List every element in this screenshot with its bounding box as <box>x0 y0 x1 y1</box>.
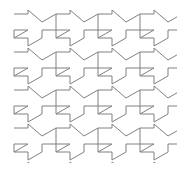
tessellation-tile <box>98 10 140 46</box>
tile-layer <box>14 10 194 175</box>
tessellation-tile <box>182 48 194 84</box>
tessellation-tile <box>140 48 182 84</box>
tessellation-tile <box>98 162 140 175</box>
tessellation-figure <box>0 0 194 175</box>
tessellation-tile <box>14 10 56 46</box>
tessellation-tile <box>14 86 56 122</box>
tessellation-tile <box>14 48 56 84</box>
tessellation-tile <box>182 86 194 122</box>
tessellation-tile <box>140 124 182 160</box>
tessellation-tile <box>56 86 98 122</box>
tessellation-tile <box>140 10 182 46</box>
tessellation-canvas <box>0 0 194 175</box>
tessellation-tile <box>140 162 182 175</box>
tessellation-tile <box>182 10 194 46</box>
tessellation-tile <box>56 10 98 46</box>
tessellation-tile <box>56 48 98 84</box>
tessellation-tile <box>14 162 56 175</box>
tessellation-tile <box>98 48 140 84</box>
tessellation-tile <box>56 162 98 175</box>
tessellation-tile <box>56 124 98 160</box>
tessellation-tile <box>140 86 182 122</box>
tessellation-tile <box>182 162 194 175</box>
tessellation-tile <box>98 86 140 122</box>
tessellation-tile <box>98 124 140 160</box>
tessellation-tile <box>14 124 56 160</box>
tessellation-tile <box>182 124 194 160</box>
